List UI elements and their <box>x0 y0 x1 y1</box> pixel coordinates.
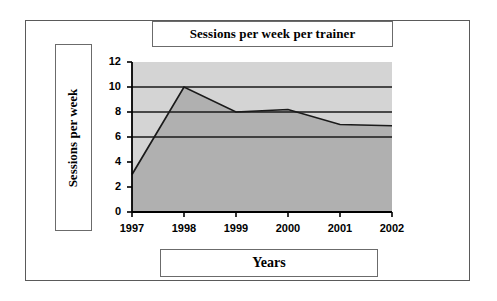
chart-title-box: Sessions per week per trainer <box>152 21 393 47</box>
y-axis-tick-label: 0 <box>99 205 121 217</box>
x-axis-tick-label: 1997 <box>111 222 153 234</box>
x-axis-tick-label: 1999 <box>215 222 257 234</box>
y-axis-tick-label: 4 <box>99 155 121 167</box>
x-axis-title-box: Years <box>160 249 378 277</box>
y-axis-tick-label: 10 <box>99 80 121 92</box>
y-axis-title-text: Sessions per week <box>66 88 82 187</box>
y-axis-tick-label: 12 <box>99 55 121 67</box>
chart-title-text: Sessions per week per trainer <box>190 26 356 42</box>
y-axis-tick-label: 6 <box>99 130 121 142</box>
y-axis-title-box: Sessions per week <box>55 44 92 231</box>
y-axis-tick-label: 2 <box>99 180 121 192</box>
x-axis-title-text: Years <box>252 255 285 271</box>
x-axis-tick-label: 2002 <box>371 222 413 234</box>
y-axis-tick-label: 8 <box>99 105 121 117</box>
x-axis-tick-label: 2000 <box>267 222 309 234</box>
x-axis-tick-label: 2001 <box>319 222 361 234</box>
x-axis-tick-label: 1998 <box>163 222 205 234</box>
